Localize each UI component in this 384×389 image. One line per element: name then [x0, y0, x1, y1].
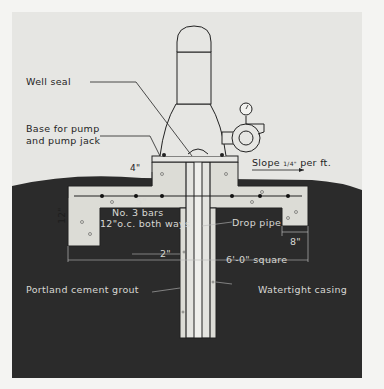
well-cross-section-drawing	[12, 12, 362, 378]
motor-dome	[177, 26, 211, 52]
label-bars-line1: No. 3 bars	[112, 207, 164, 218]
label-bars-line2: 12"o.c. both ways	[100, 218, 190, 229]
label-portland-cement-grout: Portland cement grout	[26, 284, 139, 295]
label-slope: Slope 1/4" per ft.	[252, 157, 331, 169]
drop-pipe	[194, 152, 202, 338]
pump-volute	[232, 124, 260, 152]
label-dim-12in: 12"	[57, 207, 68, 224]
label-base-line1: Base for pump	[26, 123, 99, 134]
label-dim-8in: 8"	[290, 236, 301, 247]
label-base-line2: and pump jack	[26, 135, 100, 146]
diagram-frame: Well seal Base for pump and pump jack 4"…	[12, 12, 362, 378]
label-dim-2in: 2"	[160, 248, 171, 259]
pump-head	[160, 104, 226, 156]
label-dim-5in: 5"	[136, 196, 147, 207]
label-drop-pipe: Drop pipe	[232, 217, 281, 228]
slope-unit: per ft.	[300, 157, 331, 168]
slope-word: Slope	[252, 157, 280, 168]
label-well-seal: Well seal	[26, 76, 71, 87]
pump-motor	[177, 52, 211, 104]
label-watertight-casing: Watertight casing	[258, 284, 347, 295]
label-dim-4in: 4"	[130, 163, 140, 174]
label-6ft-square: 6'-0" square	[226, 254, 287, 265]
slope-fraction: 1/4"	[283, 160, 297, 167]
pump-base-plate	[152, 156, 238, 162]
